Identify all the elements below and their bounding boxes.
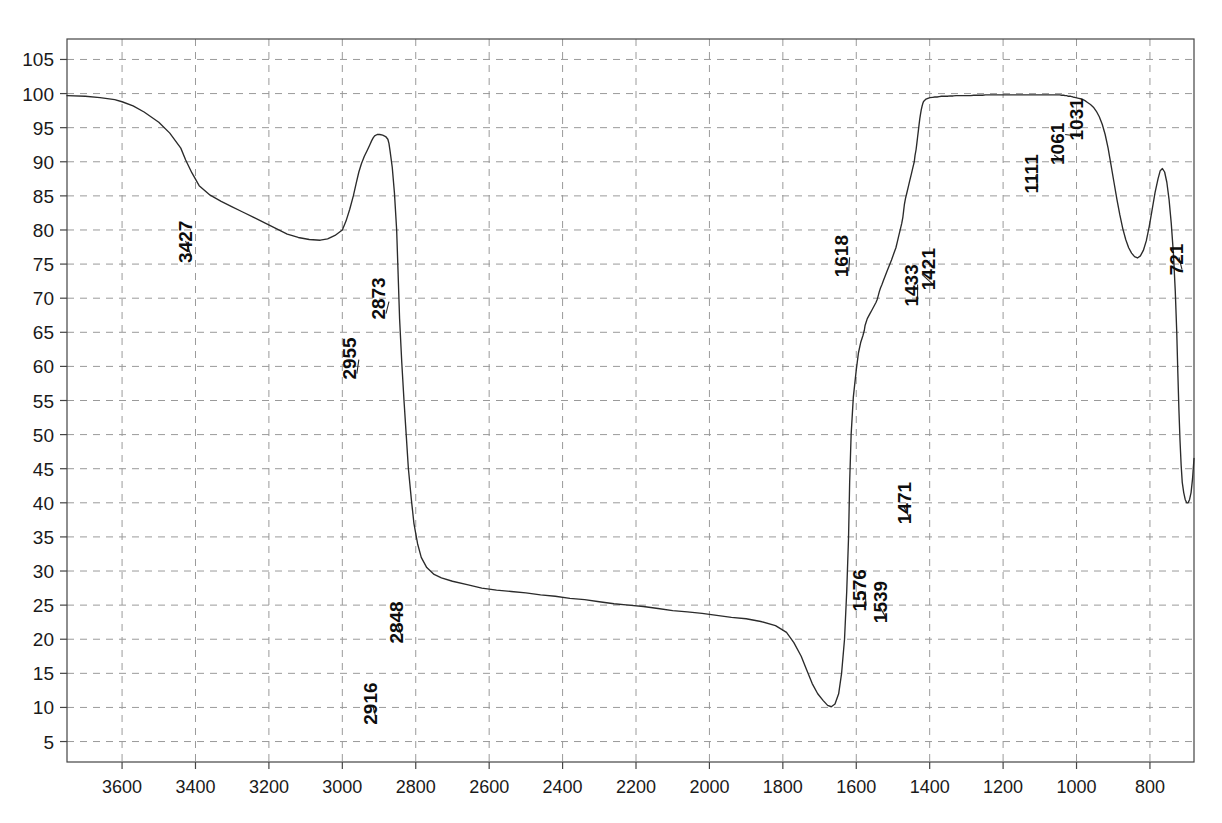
peak-label: 1031 [1066,98,1087,141]
peak-label: 1576 [849,569,870,611]
y-tick-label: 85 [33,186,54,207]
y-tick-label: 30 [33,561,54,582]
peak-label: 721 [1166,243,1187,275]
y-tick-label: 105 [22,49,54,70]
y-tick-label: 40 [33,493,54,514]
y-tick-label: 70 [33,288,54,309]
x-tick-label: 1400 [910,777,950,797]
x-tick-label: 2000 [689,777,729,797]
x-tick-label: 1200 [983,777,1023,797]
x-tick-label: 1600 [836,777,876,797]
y-tick-label: 50 [33,425,54,446]
peak-label-layer: 3427295529162873284816181576153914711433… [175,98,1187,725]
y-tick-label: 10 [33,697,54,718]
y-tick-label: 65 [33,322,54,343]
x-tick-label: 1000 [1057,777,1097,797]
y-tick-label: 75 [33,254,54,275]
x-tick-label: 2600 [469,777,509,797]
y-tick-label: 20 [33,629,54,650]
x-tick-label: 1800 [763,777,803,797]
y-tick-label: 15 [33,663,54,684]
y-tick-label: 25 [33,595,54,616]
grid-layer [67,39,1194,762]
peak-label: 3427 [175,221,196,263]
y-tick-label: 5 [43,732,54,753]
peak-label: 1421 [918,248,939,291]
y-tick-label: 90 [33,152,54,173]
y-tick-label: 60 [33,356,54,377]
x-tick-label: 3400 [175,777,215,797]
axis-tick-layer [60,59,1150,769]
peak-label: 2955 [339,337,360,380]
y-tick-label: 100 [22,84,54,105]
x-tick-label: 2800 [396,777,436,797]
x-tick-label: 800 [1135,777,1165,797]
y-tick-label: 80 [33,220,54,241]
x-tick-label: 2200 [616,777,656,797]
x-tick-label: 3200 [249,777,289,797]
peak-label: 1471 [894,482,915,525]
peak-label: 1111 [1021,154,1042,194]
peak-label: 2916 [360,682,381,724]
peak-label: 1061 [1047,122,1068,165]
peak-label: 1618 [831,235,852,277]
x-tick-label: 3000 [322,777,362,797]
y-axis-labels: 5101520253035404550556065707580859095100… [22,49,54,752]
peak-label: 2848 [386,601,407,643]
y-tick-label: 45 [33,459,54,480]
y-tick-label: 55 [33,391,54,412]
x-tick-label: 3600 [102,777,142,797]
peak-label: 1539 [870,581,891,623]
y-tick-label: 35 [33,527,54,548]
peak-label: 2873 [368,277,389,319]
y-tick-label: 95 [33,118,54,139]
ir-spectrum-chart: 5101520253035404550556065707580859095100… [0,0,1222,823]
x-tick-label: 2400 [543,777,583,797]
spectrum-svg: 5101520253035404550556065707580859095100… [0,0,1222,823]
x-axis-labels: 3600340032003000280026002400220020001800… [102,777,1165,797]
